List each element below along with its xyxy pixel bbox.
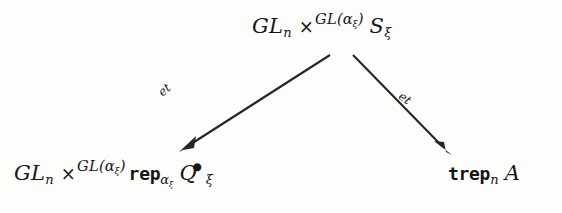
node-bottom-left-object: GLn×GL(αξ)repαξQ●ξ	[14, 163, 213, 184]
node-bottom-right-object: trepnA	[448, 163, 520, 184]
node-top-expression: GLn×GL(αξ)Sξ	[252, 14, 392, 38]
node-bottom-right-expression: trepnA	[448, 161, 520, 185]
commutative-diagram: GLn×GL(αξ)Sξ GLn×GL(αξ)repαξQ●ξ trepnA e…	[0, 0, 562, 213]
left-arrow	[179, 55, 330, 152]
node-top-object: GLn×GL(αξ)Sξ	[252, 16, 392, 37]
node-bottom-left-expression: GLn×GL(αξ)repαξQ●ξ	[14, 161, 213, 185]
